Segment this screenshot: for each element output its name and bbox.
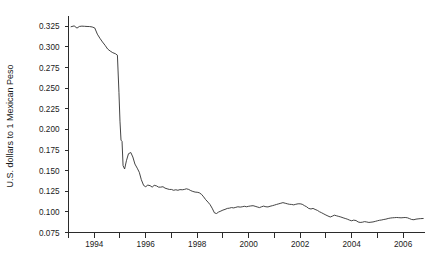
y-axis-title-text: U.S. dollars to 1 Mexican Peso xyxy=(5,64,15,187)
y-tick-label: 0.125 xyxy=(39,187,60,196)
x-tick-label: 2004 xyxy=(343,240,362,249)
x-tick-label: 2002 xyxy=(291,240,310,249)
y-tick-label: 0.300 xyxy=(39,43,60,52)
x-tick-label: 2000 xyxy=(240,240,259,249)
y-axis-tick-labels: 0.0750.1000.1250.1500.1750.2000.2250.250… xyxy=(39,22,60,237)
y-tick-label: 0.200 xyxy=(39,125,60,134)
x-axis-tick-labels: 1994199619982000200220042006 xyxy=(85,240,413,249)
x-tick-label: 1998 xyxy=(188,240,207,249)
x-tick-label: 1994 xyxy=(85,240,104,249)
x-tick-label: 2006 xyxy=(394,240,413,249)
y-tick-label: 0.325 xyxy=(39,22,60,31)
line-chart-svg: U.S. dollars to 1 Mexican Peso 0.0750.10… xyxy=(0,0,439,263)
axis-tick-marks xyxy=(65,26,404,237)
y-tick-label: 0.100 xyxy=(39,208,60,217)
y-tick-label: 0.275 xyxy=(39,64,60,73)
data-series-line xyxy=(71,26,423,223)
y-tick-label: 0.225 xyxy=(39,105,60,114)
y-axis-title: U.S. dollars to 1 Mexican Peso xyxy=(5,64,15,187)
y-tick-label: 0.175 xyxy=(39,146,60,155)
x-tick-label: 1996 xyxy=(137,240,156,249)
y-tick-label: 0.150 xyxy=(39,167,60,176)
y-tick-label: 0.250 xyxy=(39,84,60,93)
y-tick-label: 0.075 xyxy=(39,229,60,238)
chart-figure: U.S. dollars to 1 Mexican Peso 0.0750.10… xyxy=(0,0,439,263)
